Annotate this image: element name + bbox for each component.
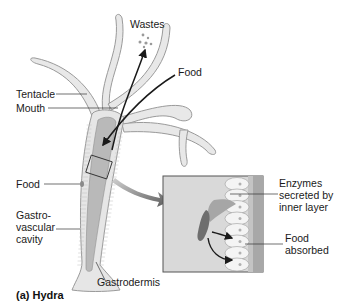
label-gvc-line2: vascular (16, 221, 56, 233)
label-gvc-line1: Gastro- (16, 209, 52, 221)
waste-particles (139, 34, 153, 49)
label-gastrodermis: Gastrodermis (97, 276, 160, 288)
cell-nucleus (239, 229, 242, 232)
gastrodermis-cell (225, 224, 249, 237)
gastrodermis-cell (225, 178, 249, 191)
label-gvc-line3: cavity (16, 233, 44, 245)
cell-nucleus (239, 206, 242, 209)
tentacle-far-right (122, 122, 216, 154)
inset-panel (163, 176, 263, 272)
cell-nucleus (239, 240, 242, 243)
label-absorbed-line1: Food (285, 232, 309, 244)
cell-nucleus (239, 217, 242, 220)
label-enzymes-line3: inner layer (279, 201, 329, 213)
cell-nucleus (239, 252, 242, 255)
label-enzymes-line2: secreted by (279, 189, 334, 201)
label-food-body: Food (16, 178, 40, 190)
hydra-diagram: Wastes Food Tentacle Mouth Food Gastro- … (0, 0, 343, 305)
label-mouth: Mouth (16, 102, 45, 114)
cell-nucleus (239, 183, 242, 186)
label-food-in: Food (178, 66, 202, 78)
label-wastes: Wastes (130, 18, 165, 30)
figure-caption: (a) Hydra (16, 289, 65, 301)
zoom-pointer-arrow (112, 178, 170, 207)
gastrodermis-cell (225, 247, 249, 260)
tentacles (31, 14, 216, 166)
food-particle (80, 181, 84, 187)
label-enzymes-line1: Enzymes (279, 177, 322, 189)
hydra-body (72, 110, 124, 292)
label-tentacle: Tentacle (16, 88, 55, 100)
gastrodermis-cell (225, 212, 249, 225)
cell-nucleus (239, 263, 242, 266)
cell-nucleus (239, 194, 242, 197)
label-absorbed-line2: absorbed (285, 244, 329, 256)
